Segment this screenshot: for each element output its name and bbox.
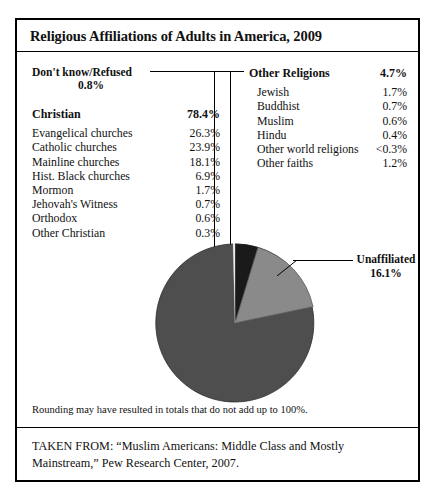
dont-know-label: Don't know/Refused (32, 66, 222, 78)
item-label: Orthodox (32, 211, 77, 225)
rounding-note: Rounding may have resulted in totals tha… (32, 404, 308, 415)
list-item: Mormon 1.7% (32, 183, 220, 197)
item-label: Other faiths (257, 156, 313, 170)
list-item: Orthodox 0.6% (32, 211, 220, 225)
list-item: Jewish 1.7% (249, 85, 407, 99)
chart-title: Religious Affiliations of Adults in Amer… (30, 28, 322, 45)
list-item: Other world religions <0.3% (249, 142, 407, 156)
item-value: <0.3% (363, 142, 407, 156)
unaffiliated-callout: Unaffiliated 16.1% (355, 252, 417, 280)
item-value: 1.2% (363, 156, 407, 170)
item-label: Mainline churches (32, 155, 119, 169)
list-item: Other faiths 1.2% (249, 156, 407, 170)
title-divider (17, 51, 418, 52)
christian-breakdown: Christian 78.4% Evangelical churches 26.… (32, 107, 220, 240)
item-label: Evangelical churches (32, 126, 133, 140)
list-item: Mainline churches 18.1% (32, 155, 220, 169)
figure-frame: Religious Affiliations of Adults in Amer… (15, 18, 420, 482)
leader-line-unaffiliated-diagonal (277, 260, 297, 276)
unaffiliated-value: 16.1% (355, 266, 417, 280)
item-label: Hist. Black churches (32, 169, 130, 183)
unaffiliated-label: Unaffiliated (355, 252, 417, 266)
christian-header-row: Christian 78.4% (32, 107, 220, 121)
pie-chart (140, 228, 330, 418)
dont-know-callout: Don't know/Refused 0.8% (32, 66, 222, 91)
item-label: Other world religions (257, 142, 359, 156)
list-item: Evangelical churches 26.3% (32, 126, 220, 140)
item-label: Jehovah's Witness (32, 197, 118, 211)
list-item: Buddhist 0.7% (249, 99, 407, 113)
item-value: 0.7% (363, 99, 407, 113)
footer-divider (17, 427, 418, 428)
source-note: TAKEN FROM: “Muslim Americans: Middle Cl… (32, 438, 402, 472)
leader-line-other-religions-horizontal (230, 71, 244, 72)
item-label: Jewish (257, 85, 289, 99)
list-item: Muslim 0.6% (249, 114, 407, 128)
item-label: Buddhist (257, 99, 300, 113)
leader-line-dont-know-horizontal (150, 71, 235, 72)
list-item: Hindu 0.4% (249, 128, 407, 142)
item-label: Muslim (257, 114, 294, 128)
other-religions-value: 4.7% (363, 66, 407, 80)
other-religions-header-row: Other Religions 4.7% (249, 66, 407, 80)
item-label: Mormon (32, 183, 73, 197)
other-religions-label: Other Religions (249, 66, 330, 80)
christian-label: Christian (32, 107, 81, 121)
list-item: Jehovah's Witness 0.7% (32, 197, 220, 211)
dont-know-value: 0.8% (32, 79, 150, 91)
item-label: Catholic churches (32, 140, 117, 154)
item-value: 0.6% (363, 114, 407, 128)
list-item: Hist. Black churches 6.9% (32, 169, 220, 183)
item-label: Hindu (257, 128, 287, 142)
item-value: 0.4% (363, 128, 407, 142)
leader-line-unaffiliated-horizontal (293, 260, 353, 261)
item-label: Other Christian (32, 226, 105, 240)
item-value: 1.7% (363, 85, 407, 99)
other-religions-breakdown: Other Religions 4.7% Jewish 1.7% Buddhis… (249, 66, 407, 170)
list-item: Catholic churches 23.9% (32, 140, 220, 154)
